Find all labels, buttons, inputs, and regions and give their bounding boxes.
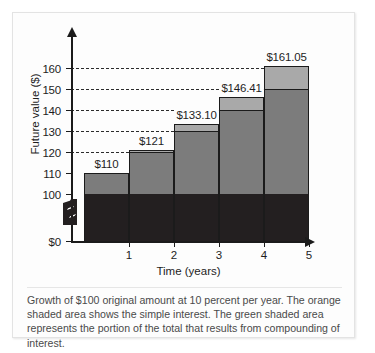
bar-segment-principal xyxy=(219,194,264,241)
x-axis-tick-label: 1 xyxy=(126,249,132,261)
y-axis-tick-label: 150 xyxy=(42,84,61,96)
bar-segment-simple-interest xyxy=(264,89,309,194)
bar-segment-simple-interest xyxy=(84,173,129,194)
bar-segment-simple-interest xyxy=(219,110,264,194)
bar-segment-simple-interest xyxy=(174,131,219,194)
bar-value-label: $121 xyxy=(137,135,166,147)
x-axis-tick xyxy=(309,241,310,247)
y-axis-tick-label: 160 xyxy=(42,63,61,75)
y-axis-tick: $0 xyxy=(66,241,72,242)
bar[interactable] xyxy=(129,150,174,241)
y-axis-tick-label: $0 xyxy=(49,236,61,248)
y-axis-tick: 140 xyxy=(66,110,72,111)
gridline xyxy=(71,131,174,132)
bar-segment-compound-interest xyxy=(219,97,264,110)
caption-divider xyxy=(27,287,342,288)
x-axis-tick-label: 5 xyxy=(306,249,312,261)
chart-plot-area: $0100110120130140150160 12345 $110$121$1… xyxy=(13,13,356,275)
bar-segment-compound-interest xyxy=(264,66,309,89)
x-axis-tick-label: 3 xyxy=(216,249,222,261)
figure-container: $0100110120130140150160 12345 $110$121$1… xyxy=(12,12,355,338)
y-axis-tick: 130 xyxy=(66,131,72,132)
bar-value-label: $110 xyxy=(93,158,121,170)
bar-value-label: $161.05 xyxy=(264,51,308,63)
bar-segment-principal xyxy=(264,194,309,241)
y-axis-title: Future value ($) xyxy=(29,59,41,169)
bar-value-label: $133.10 xyxy=(174,109,218,121)
y-axis-tick: 160 xyxy=(66,68,72,69)
y-axis-tick: 110 xyxy=(66,173,72,174)
x-axis-title: Time (years) xyxy=(71,265,306,277)
bar[interactable] xyxy=(219,97,264,241)
x-axis-tick-label: 2 xyxy=(171,249,177,261)
bar-segment-principal xyxy=(84,194,129,241)
bar-segment-simple-interest xyxy=(129,152,174,194)
bar[interactable] xyxy=(264,66,309,241)
figure-caption: Growth of $100 original amount at 10 per… xyxy=(27,293,345,350)
x-axis-tick xyxy=(264,241,265,247)
bar-segment-principal xyxy=(174,194,219,241)
y-axis-tick-label: 100 xyxy=(42,189,61,201)
gridline xyxy=(71,152,129,153)
y-axis-tick: 100 xyxy=(66,194,72,195)
y-axis-tick: 150 xyxy=(66,89,72,90)
bar-value-label: $146.41 xyxy=(219,82,263,94)
x-axis-line xyxy=(71,241,306,243)
x-axis-tick xyxy=(219,241,220,247)
bar-segment-divider xyxy=(174,131,219,132)
bar-segment-divider xyxy=(129,152,174,153)
y-axis-tick-label: 140 xyxy=(42,105,61,117)
bar-segment-divider xyxy=(264,89,309,90)
bar-segment-divider xyxy=(219,110,264,111)
bar-segment-principal xyxy=(129,194,174,241)
y-axis-tick-label: 120 xyxy=(42,147,61,159)
y-axis-tick: 120 xyxy=(66,152,72,153)
y-axis-arrow-icon xyxy=(67,27,77,37)
y-axis-break-icon xyxy=(63,199,77,225)
x-axis-tick xyxy=(129,241,130,247)
x-axis-tick xyxy=(174,241,175,247)
y-axis-tick-label: 130 xyxy=(42,126,61,138)
bar[interactable] xyxy=(174,124,219,241)
x-axis-tick-label: 4 xyxy=(261,249,267,261)
bar[interactable] xyxy=(84,173,129,241)
y-axis-tick-label: 110 xyxy=(43,168,61,180)
